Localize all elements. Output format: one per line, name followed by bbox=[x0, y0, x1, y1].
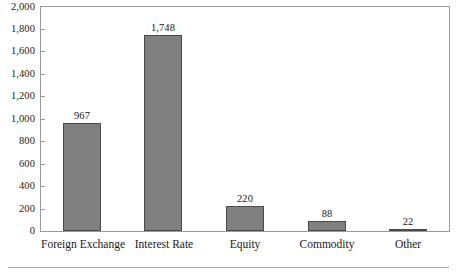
footer-rule bbox=[8, 267, 449, 268]
bar-value-label: 220 bbox=[205, 193, 285, 204]
bar-chart: 2,000 1,800 1,600 1,400 1,200 1,000 800 … bbox=[0, 0, 457, 275]
bar-equity bbox=[226, 206, 264, 231]
x-category-label: Foreign Exchange bbox=[41, 238, 123, 251]
bar-commodity bbox=[308, 221, 346, 231]
bar-value-label: 967 bbox=[42, 110, 122, 121]
bar-value-label: 1,748 bbox=[123, 22, 203, 33]
x-category-label: Other bbox=[367, 238, 449, 251]
bar-interest-rate bbox=[144, 35, 182, 231]
bar-foreign-exchange bbox=[63, 123, 101, 231]
x-category-label: Interest Rate bbox=[123, 238, 205, 251]
bar-other bbox=[389, 229, 427, 231]
bars-layer: 967 1,748 220 88 22 Foreign Exchange Int… bbox=[0, 0, 457, 275]
bar-value-label: 22 bbox=[368, 216, 448, 227]
bar-value-label: 88 bbox=[287, 208, 367, 219]
x-category-label: Commodity bbox=[286, 238, 368, 251]
x-category-label: Equity bbox=[204, 238, 286, 251]
